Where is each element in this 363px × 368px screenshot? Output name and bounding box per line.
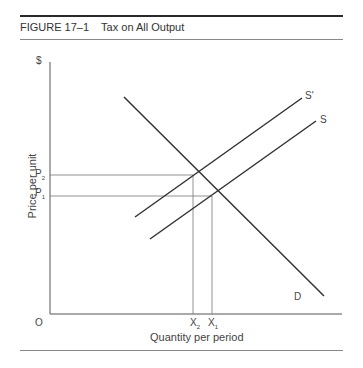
x1-label: X1 xyxy=(208,317,218,330)
supply-label: S xyxy=(320,114,327,125)
y-axis-label: Price per unit xyxy=(26,141,38,231)
bottom-rule xyxy=(20,350,343,351)
supply-after-tax-curve xyxy=(135,98,302,217)
x-axis-label: Quantity per period xyxy=(150,331,244,343)
origin-label: O xyxy=(35,317,43,328)
y-unit-label: $ xyxy=(36,55,42,66)
p2-label: P2 xyxy=(35,168,45,181)
supply-curve xyxy=(150,121,316,239)
demand-label: D xyxy=(294,291,301,302)
supply-after-tax-label: S' xyxy=(305,90,314,101)
diagram-canvas xyxy=(0,0,363,368)
x2-label: X2 xyxy=(190,317,200,330)
p1-label: P1 xyxy=(35,187,45,200)
demand-curve xyxy=(124,97,324,296)
